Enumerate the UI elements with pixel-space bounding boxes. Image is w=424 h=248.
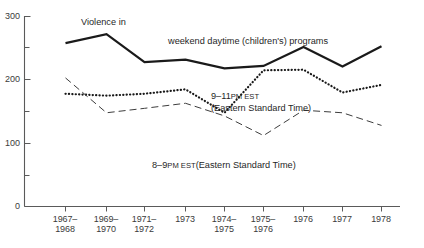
x-tick-label-5-line1: 1975– — [251, 214, 276, 224]
annotation-9-11pm-range: 9–11 — [211, 91, 231, 101]
x-tick-label-5: 1975– 1976 — [241, 214, 285, 234]
x-tick-label-6-line1: 1976 — [293, 214, 313, 224]
annotation-8-9pm: 8–9PM EST(Eastern Standard Time) — [152, 160, 296, 172]
y-tick-label-300: 300 — [0, 11, 20, 21]
x-tick-label-5-line2: 1976 — [241, 224, 285, 234]
x-tick-label-1-line1: 1969– — [94, 214, 119, 224]
x-tick-label-8: 1978 — [359, 214, 403, 224]
annotation-8-9pm-caps: PM EST — [167, 161, 195, 170]
x-tick-label-0-line2: 1968 — [43, 224, 87, 234]
x-tick-label-0-line1: 1967– — [53, 214, 78, 224]
y-tick-label-100: 100 — [0, 138, 20, 148]
annotation-9-11pm-expansion: (Eastern Standard Time) — [211, 103, 311, 114]
x-tick-label-3: 1973 — [163, 214, 207, 224]
x-tick-label-8-line1: 1978 — [371, 214, 391, 224]
y-tick-label-200: 200 — [0, 74, 20, 84]
annotation-9-11pm: 9–11PM EST (Eastern Standard Time) — [211, 91, 311, 113]
x-tick-label-4-line2: 1975 — [202, 224, 246, 234]
annotation-violence-in: Violence in — [81, 17, 126, 28]
x-tick-label-4-line1: 1974– — [212, 214, 237, 224]
x-tick-label-2: 1971– 1972 — [122, 214, 166, 234]
x-tick-label-2-line2: 1972 — [122, 224, 166, 234]
annotation-weekend-daytime: weekend daytime (children's) programs — [168, 36, 328, 47]
x-tick-label-0: 1967– 1968 — [43, 214, 87, 234]
x-tick-label-4: 1974– 1975 — [202, 214, 246, 234]
y-tick-label-0: 0 — [0, 201, 20, 211]
x-tick-label-7: 1977 — [320, 214, 364, 224]
x-tick-label-2-line1: 1971– — [132, 214, 157, 224]
annotation-9-11pm-caps: PM EST — [231, 92, 259, 101]
y-axis-ticks — [25, 17, 31, 207]
page-bottom-cut-text — [0, 241, 424, 248]
x-tick-label-6: 1976 — [281, 214, 325, 224]
annotation-8-9pm-expansion: (Eastern Standard Time) — [196, 160, 296, 170]
x-tick-label-7-line1: 1977 — [332, 214, 352, 224]
x-axis-ticks — [66, 207, 382, 212]
x-tick-label-3-line1: 1973 — [175, 214, 195, 224]
annotation-8-9pm-range: 8–9 — [152, 160, 167, 170]
chart-figure: 300 200 100 0 1967– 1968 1969– 1970 1971… — [0, 0, 424, 248]
